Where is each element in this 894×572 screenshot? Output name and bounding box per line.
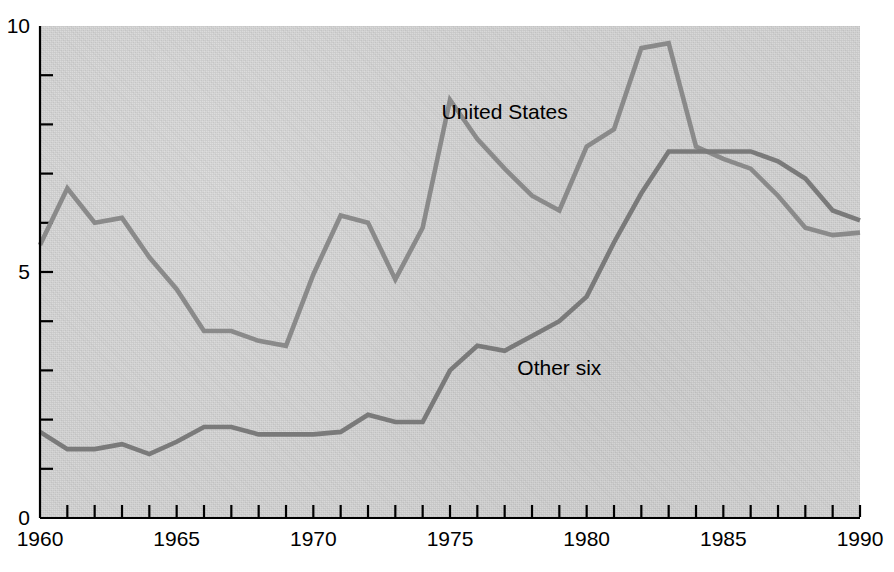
x-tick-label-1960: 1960 (0, 528, 85, 549)
x-tick-label-1975: 1975 (405, 528, 495, 549)
series-label-united-states: United States (442, 101, 568, 122)
x-tick-label-1990: 1990 (815, 528, 894, 549)
x-tick-label-1985: 1985 (678, 528, 768, 549)
y-tick-label-5: 5 (0, 261, 30, 282)
chart-container: 05101960196519701975198019851990 United … (0, 0, 894, 572)
y-tick-label-10: 10 (0, 15, 30, 36)
x-tick-label-1965: 1965 (132, 528, 222, 549)
series-label-other-six: Other six (517, 357, 601, 378)
x-tick-label-1970: 1970 (268, 528, 358, 549)
x-tick-label-1980: 1980 (542, 528, 632, 549)
y-tick-label-0: 0 (0, 507, 30, 528)
